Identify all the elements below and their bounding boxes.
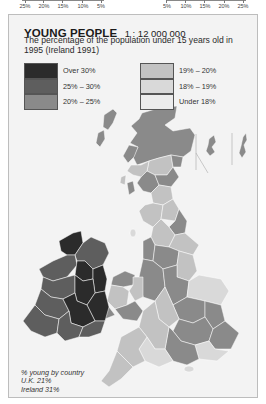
- map-subtitle: The percentage of the population under 1…: [24, 36, 254, 55]
- region-orkney[interactable]: [206, 135, 216, 156]
- legend-label: Over 30%: [63, 66, 95, 75]
- axis-baseline-right: [166, 0, 246, 1]
- legend-swatch: [140, 63, 174, 79]
- axis-tick-label: 25%: [237, 3, 248, 9]
- axis-strip: 25% 20% 15% 10% 5% 5% 10% 15% 20% 25%: [0, 0, 266, 12]
- axis-tick-label: 15%: [199, 3, 210, 9]
- legend-label: 18% – 19%: [179, 82, 216, 91]
- legend-label: 19% – 20%: [179, 66, 216, 75]
- legend-swatch: [140, 79, 174, 95]
- legend-label: 20% – 25%: [63, 97, 100, 106]
- legend-label: Under 18%: [179, 97, 216, 106]
- legend-swatch: [24, 94, 58, 110]
- axis-tick-label: 5%: [163, 3, 171, 9]
- axis-tick-label: 10%: [77, 3, 88, 9]
- region-anglesey-gwynedd[interactable]: [111, 271, 135, 287]
- region-isle-of-man[interactable]: [130, 229, 136, 237]
- map-panel: YOUNG PEOPLE 1 : 12 000 000 The percenta…: [8, 14, 258, 398]
- axis-tick-label: 20%: [218, 3, 229, 9]
- region-lincolnshire[interactable]: [177, 251, 197, 281]
- region-islay[interactable]: [120, 175, 126, 185]
- country-footnote: % young by country U.K. 21% Ireland 31%: [21, 369, 84, 394]
- region-arran[interactable]: [127, 181, 135, 195]
- axis-tick-label: 15%: [57, 3, 68, 9]
- legend-swatch: [24, 79, 58, 95]
- axis-tick-label: 10%: [180, 3, 191, 9]
- region-western-isles-south[interactable]: [96, 130, 105, 147]
- legend-swatch: [140, 94, 174, 110]
- region-isle-of-wight[interactable]: [184, 366, 194, 372]
- region-tayside[interactable]: [171, 155, 183, 167]
- axis-tick-label: 20%: [38, 3, 49, 9]
- region-shetland[interactable]: [239, 133, 247, 158]
- inset-divider: [196, 153, 208, 173]
- axis-tick-label: 5%: [97, 3, 105, 9]
- axis-tick-label: 25%: [19, 3, 30, 9]
- footnote-ireland: Ireland 31%: [21, 386, 84, 394]
- map-legend: Over 30% 25% – 30% 20% – 25% 19% – 20% 1…: [24, 63, 254, 115]
- legend-label: 25% – 30%: [63, 82, 100, 91]
- axis-baseline-left: [22, 0, 104, 1]
- legend-swatch: [24, 63, 58, 79]
- region-louth-meath[interactable]: [93, 265, 107, 293]
